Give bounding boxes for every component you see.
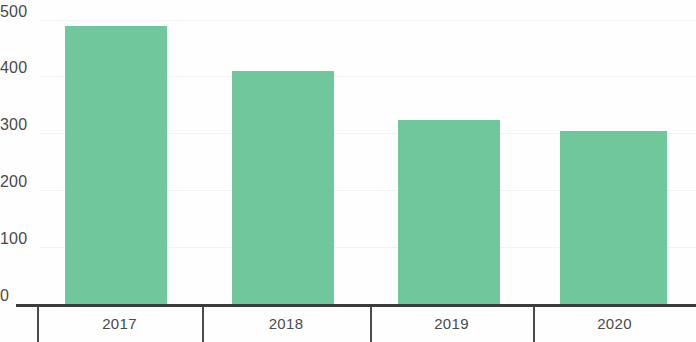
x-axis: 2017 2018 2019 2020 [0, 307, 696, 342]
x-tick-label-2017: 2017 [37, 315, 202, 333]
y-tick-label-200: 200 [0, 174, 36, 190]
x-tick-label-2019: 2019 [370, 315, 533, 333]
y-tick-label-500: 500 [0, 4, 36, 20]
bar-2017 [65, 26, 167, 305]
x-tick-label-2018: 2018 [202, 315, 370, 333]
bar-2019 [398, 120, 500, 305]
y-tick-label-100: 100 [0, 231, 36, 247]
bar-2018 [232, 71, 334, 305]
y-tick-label-400: 400 [0, 60, 36, 76]
x-tick-label-2020: 2020 [533, 315, 696, 333]
y-tick-label-0: 0 [0, 288, 36, 304]
bars-layer [0, 0, 696, 306]
y-tick-label-300: 300 [0, 117, 36, 133]
plot-area: 500 400 300 200 100 0 [0, 0, 696, 306]
bar-2020 [560, 131, 667, 305]
bar-chart: 500 400 300 200 100 0 2017 2018 2019 202… [0, 0, 696, 342]
y-axis: 500 400 300 200 100 0 [0, 0, 40, 306]
